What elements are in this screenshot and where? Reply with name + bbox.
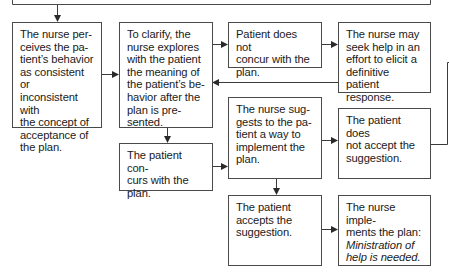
line: Patient does not: [236, 28, 315, 53]
node-perceive: The nurse per- ceives the pa- tient’s be…: [12, 22, 102, 128]
line: The nurse per-: [20, 28, 95, 41]
line: acceptance of: [20, 129, 95, 142]
node-implements: The nurse imple- ments the plan: Ministr…: [338, 195, 431, 266]
line: The nurse sug-: [236, 103, 315, 116]
line: as consistent or: [20, 66, 95, 91]
line: ments the plan:: [346, 226, 424, 239]
line: curs with the: [127, 174, 206, 187]
line: suggestion.: [346, 152, 424, 165]
line: the meaning of: [127, 66, 206, 79]
line: the patient’s be-: [127, 78, 206, 91]
node-accepts: The patient accepts the suggestion.: [228, 195, 322, 266]
node-clarify: To clarify, the nurse explores with the …: [119, 22, 213, 128]
node-not-concur: Patient does not concur with the plan.: [228, 22, 322, 68]
line: the concept of: [20, 116, 95, 129]
node-concurs: The patient con- curs with the plan.: [119, 143, 213, 191]
node-suggests: The nurse sug- gests to the pa- tient a …: [228, 97, 322, 179]
line: plan.: [236, 66, 315, 79]
line: seek help in an: [346, 41, 424, 54]
line: plan.: [236, 153, 315, 166]
line: The nurse may: [346, 28, 424, 41]
line: the plan.: [20, 141, 95, 154]
line: sented.: [127, 116, 206, 129]
line: nurse explores: [127, 41, 206, 54]
line: suggestion.: [236, 226, 315, 239]
line: with the patient: [127, 53, 206, 66]
node-not-accept: The patient does not accept the suggesti…: [338, 108, 431, 179]
line: definitive patient: [346, 66, 424, 91]
line: response.: [346, 91, 424, 104]
line: gests to the pa-: [236, 116, 315, 129]
line: tient a way to: [236, 128, 315, 141]
line: implement the: [236, 141, 315, 154]
line: tient’s behavior: [20, 53, 95, 66]
top-box-outline: [13, 0, 431, 5]
line: To clarify, the: [127, 28, 206, 41]
line-italic: help is needed.: [346, 251, 424, 264]
line: not accept the: [346, 139, 424, 152]
line: The patient does: [346, 114, 424, 139]
line: concur with the: [236, 53, 315, 66]
line: The nurse imple-: [346, 201, 424, 226]
line-italic: Ministration of: [346, 239, 424, 252]
line: plan is pre-: [127, 104, 206, 117]
line: havior after the: [127, 91, 206, 104]
line: effort to elicit a: [346, 53, 424, 66]
line: ceives the pa-: [20, 41, 95, 54]
node-seek-help: The nurse may seek help in an effort to …: [338, 22, 431, 93]
line: The patient con-: [127, 149, 206, 174]
line-not-accept-loop: [430, 63, 449, 145]
line: plan.: [127, 187, 206, 200]
line: accepts the: [236, 214, 315, 227]
line: The patient: [236, 201, 315, 214]
line: inconsistent with: [20, 91, 95, 116]
